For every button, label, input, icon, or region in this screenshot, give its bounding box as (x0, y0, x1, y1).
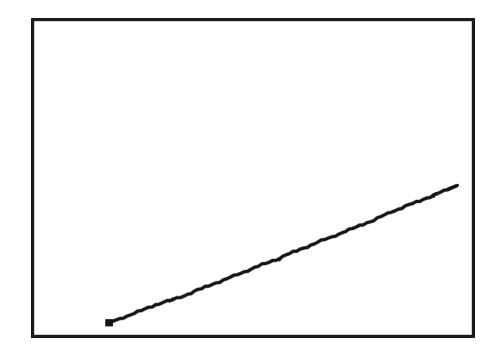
line-chart (0, 0, 494, 355)
plot-frame (33, 20, 474, 337)
figure-canvas: A rectangular plot frame containing one … (0, 0, 494, 355)
data-point-start-marker (106, 320, 113, 326)
